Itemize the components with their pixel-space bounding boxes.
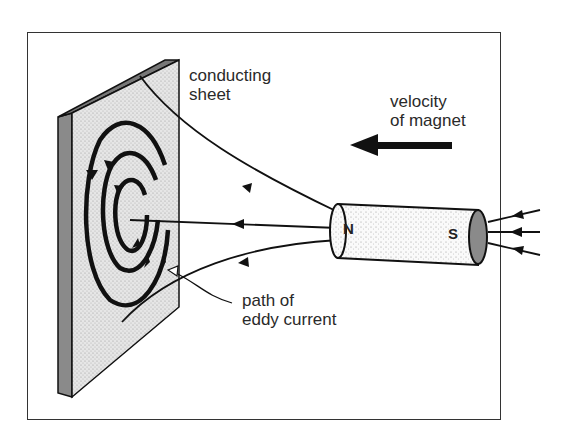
south-pole-label: S <box>448 225 458 242</box>
label-eddy-current-path: path of eddy current <box>242 291 337 329</box>
eddy-current-diagram <box>0 0 579 442</box>
north-pole-label: N <box>343 220 354 237</box>
label-conducting-sheet: conducting sheet <box>189 66 271 104</box>
label-velocity-of-magnet: velocity of magnet <box>390 92 466 130</box>
field-lines <box>122 76 540 322</box>
velocity-arrow-icon <box>350 134 452 156</box>
